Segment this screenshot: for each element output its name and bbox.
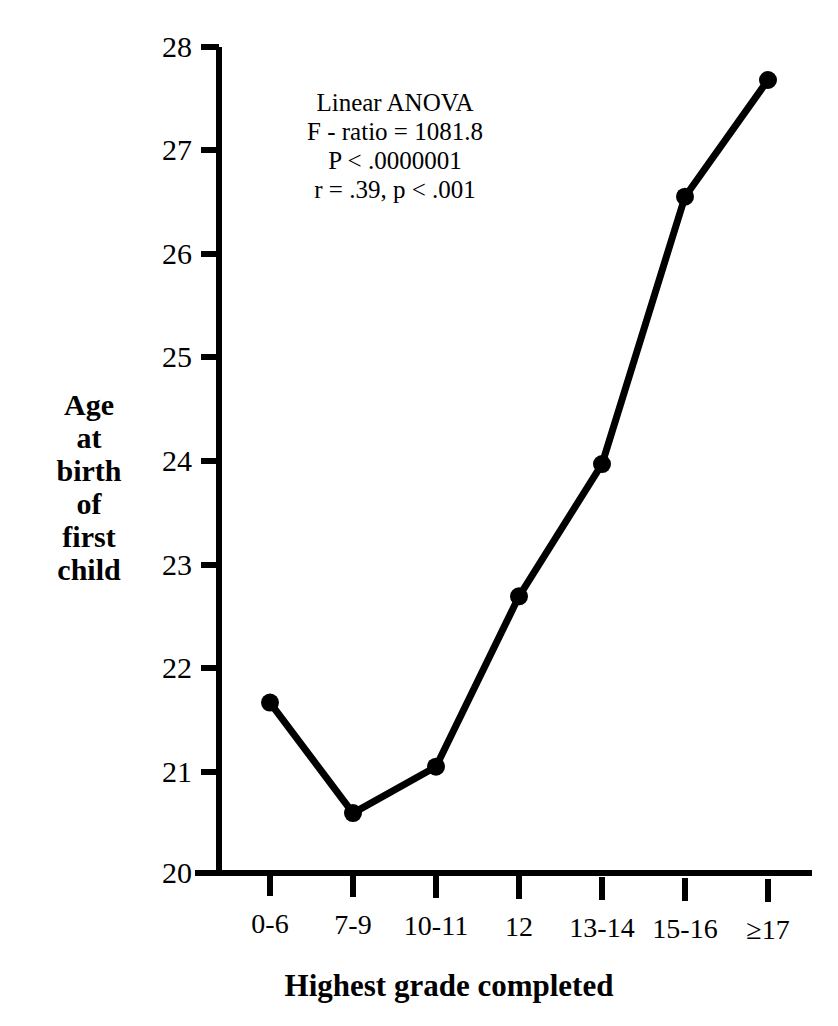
annotation-line-4: r = .39, p < .001 [272, 175, 518, 204]
x-axis-ticks [270, 873, 768, 902]
xtick-label-7-9: 7-9 [334, 911, 371, 939]
y-axis-ticks [195, 47, 219, 873]
annotation-line-2: F - ratio = 1081.8 [272, 117, 518, 146]
xtick-label-15-16: 15-16 [652, 915, 717, 943]
ytick-label-24: 24 [148, 446, 192, 476]
xtick-label-ge17: ≥17 [746, 916, 789, 944]
plot-area: 28 27 26 25 24 23 22 21 20 0-6 7-9 10-11… [0, 0, 838, 1026]
data-point-7-9 [344, 804, 362, 822]
y-axis-title-line-1: Age [28, 388, 150, 421]
data-point-0-6 [261, 694, 279, 712]
annotation-line-1: Linear ANOVA [272, 88, 518, 117]
ytick-label-26: 26 [148, 239, 192, 269]
chart-figure: 28 27 26 25 24 23 22 21 20 0-6 7-9 10-11… [0, 0, 838, 1026]
xtick-label-0-6: 0-6 [251, 910, 288, 938]
data-point-15-16 [676, 188, 694, 206]
y-axis-title-line-5: first [28, 520, 150, 553]
xtick-label-10-11: 10-11 [404, 912, 468, 940]
xtick-label-12: 12 [505, 913, 533, 941]
y-axis-title-line-4: of [28, 487, 150, 520]
x-axis-title: Highest grade completed [0, 968, 838, 1004]
ytick-label-23: 23 [148, 550, 192, 580]
ytick-label-27: 27 [148, 135, 192, 165]
ytick-label-21: 21 [148, 757, 192, 787]
statistics-annotation: Linear ANOVA F - ratio = 1081.8 P < .000… [272, 88, 518, 204]
data-point-10-11 [427, 758, 445, 776]
y-axis-title-line-2: at [28, 421, 150, 454]
ytick-label-22: 22 [148, 653, 192, 683]
xtick-label-13-14: 13-14 [569, 914, 634, 942]
data-point-12 [510, 587, 528, 605]
y-axis-title-line-6: child [28, 553, 150, 586]
y-axis-title: Age at birth of first child [28, 388, 150, 586]
ytick-label-20: 20 [148, 858, 192, 888]
data-point-13-14 [593, 455, 611, 473]
ytick-label-25: 25 [148, 342, 192, 372]
y-axis-title-line-3: birth [28, 454, 150, 487]
annotation-line-3: P < .0000001 [272, 146, 518, 175]
data-point-≥17 [759, 71, 777, 89]
ytick-label-28: 28 [148, 32, 192, 62]
